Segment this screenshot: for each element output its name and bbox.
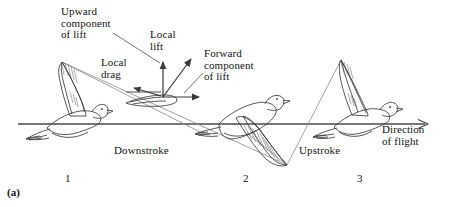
panel-label-a: (a): [7, 186, 20, 198]
label-upstroke: Upstroke: [299, 145, 340, 157]
label-downstroke: Downstroke: [114, 145, 169, 157]
bird-2: [195, 95, 290, 166]
bird-number-2: 2: [243, 172, 249, 184]
label-local-drag: Local drag: [101, 57, 127, 80]
vector-local-drag: [126, 88, 161, 96]
label-upward-component-of-lift: Upward component of lift: [61, 6, 111, 41]
flight-axis-line: [18, 120, 428, 129]
label-direction-of-flight: Direction of flight: [382, 124, 424, 147]
bird-1: [26, 62, 113, 140]
vector-local-lift: [163, 59, 191, 97]
bird-number-3: 3: [357, 172, 363, 184]
label-forward-component-of-lift: Forward component of lift: [204, 48, 254, 83]
bird-number-1: 1: [65, 172, 71, 184]
leader-forward-component: [184, 73, 203, 93]
label-local-lift: Local lift: [150, 29, 176, 52]
